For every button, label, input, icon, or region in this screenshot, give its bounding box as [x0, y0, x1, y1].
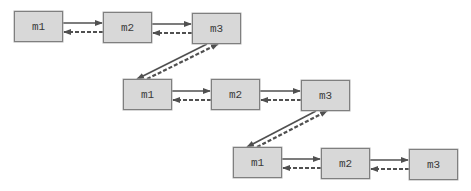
- node-row3-m1: m1: [233, 147, 282, 178]
- node-row1-m3: m3: [192, 13, 241, 44]
- node-row3-m2: m2: [321, 148, 370, 179]
- node-row1-m1: m1: [14, 11, 63, 42]
- node-row2-m2: m2: [211, 79, 260, 110]
- edge-solid-arrow: [137, 44, 207, 79]
- diagram-canvas: m1 m2 m3 m1 m2 m3 m1 m2 m3: [0, 0, 471, 191]
- node-row3-m3: m3: [409, 149, 458, 180]
- node-row2-m1: m1: [123, 79, 172, 110]
- edge-solid-arrow: [247, 111, 316, 147]
- edge-dashed-arrow: [257, 111, 327, 147]
- edge-dashed-arrow: [147, 44, 218, 79]
- node-row1-m2: m2: [103, 12, 152, 43]
- node-row2-m3: m3: [301, 80, 350, 111]
